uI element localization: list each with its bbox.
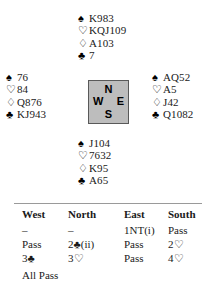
table-row: Pass 2♣(ii) Pass 2♡: [0, 238, 216, 252]
hand-west: ♠76 ♡84 ♢Q876 ♣KJ943: [6, 71, 46, 121]
bid-east-3: Pass: [124, 252, 168, 266]
hand-south-diamonds-cards: K95: [89, 162, 108, 174]
hand-east: ♠AQ52 ♡A5 ♢J42 ♣Q1082: [152, 71, 193, 121]
hand-west-spades-cards: 76: [17, 71, 28, 83]
hand-north-spades-cards: K983: [89, 12, 114, 24]
hand-south-clubs: ♣A65: [78, 174, 111, 186]
bid-south-3: 4♡: [168, 252, 216, 266]
hand-east-diamonds-cards: J42: [163, 96, 179, 108]
hand-east-spades: ♠AQ52: [152, 71, 193, 83]
table-row: 3♣ 3♡ Pass 4♡: [0, 252, 216, 266]
compass-north-label: N: [89, 84, 128, 95]
bidding-table: West North East South – – 1NT(i) Pass Pa…: [0, 208, 216, 283]
hand-west-hearts-cards: 84: [17, 83, 28, 95]
bidding-header-west: West: [0, 208, 68, 224]
heart-icon: ♡: [78, 24, 89, 36]
hand-west-clubs-cards: KJ943: [17, 108, 46, 120]
bid-east-2: Pass: [124, 238, 168, 252]
club-icon: ♣: [78, 174, 89, 186]
hand-west-diamonds-cards: Q876: [17, 96, 42, 108]
hand-east-clubs-cards: Q1082: [163, 108, 193, 120]
hand-west-clubs: ♣KJ943: [6, 108, 46, 120]
bidding-header-south: South: [168, 208, 216, 224]
hand-east-clubs: ♣Q1082: [152, 108, 193, 120]
bid-west-3: 3♣: [0, 252, 68, 266]
hand-north-clubs-cards: 7: [89, 49, 95, 61]
diamond-icon: ♢: [78, 162, 89, 174]
bidding-table-divider: [14, 203, 202, 204]
diamond-icon: ♢: [152, 96, 163, 108]
hand-north-spades: ♠K983: [78, 12, 126, 24]
hand-south: ♠J104 ♡7632 ♢K95 ♣A65: [78, 137, 111, 187]
bridge-hand-diagram: ♠K983 ♡KQJ109 ♢A103 ♣7 ♠76 ♡84 ♢Q876 ♣KJ…: [0, 0, 216, 299]
bid-south-2: 2♡: [168, 238, 216, 252]
hand-east-diamonds: ♢J42: [152, 96, 193, 108]
club-icon: ♣: [152, 108, 163, 120]
bid-north-3: 3♡: [68, 252, 124, 266]
hand-east-hearts: ♡A5: [152, 83, 193, 95]
club-icon: ♣: [6, 108, 17, 120]
heart-icon: ♡: [6, 83, 17, 95]
hand-west-spades: ♠76: [6, 71, 46, 83]
heart-icon: ♡: [78, 149, 89, 161]
hand-north-diamonds: ♢A103: [78, 37, 126, 49]
hand-south-hearts-cards: 7632: [89, 149, 111, 161]
bidding-header-row: West North East South: [0, 208, 216, 224]
spade-icon: ♠: [78, 137, 89, 149]
diamond-icon: ♢: [6, 96, 17, 108]
bid-north-2: 2♣(ii): [68, 238, 124, 252]
heart-icon: ♡: [152, 83, 163, 95]
bid-west-2: Pass: [0, 238, 68, 252]
compass-east-label: E: [117, 96, 124, 107]
compass-west-label: W: [93, 96, 103, 107]
hand-west-diamonds: ♢Q876: [6, 96, 46, 108]
hand-south-clubs-cards: A65: [89, 174, 108, 186]
hand-north-clubs: ♣7: [78, 49, 126, 61]
hand-south-spades-cards: J104: [89, 137, 110, 149]
page-artifact-text: [4, 0, 58, 7]
hand-south-hearts: ♡7632: [78, 149, 111, 161]
spade-icon: ♠: [152, 71, 163, 83]
spade-icon: ♠: [78, 12, 89, 24]
hand-north-hearts-cards: KQJ109: [89, 24, 126, 36]
hand-south-spades: ♠J104: [78, 137, 111, 149]
spade-icon: ♠: [6, 71, 17, 83]
bid-north-1: –: [68, 224, 124, 238]
hand-east-hearts-cards: A5: [163, 83, 177, 95]
bidding-header-north: North: [68, 208, 124, 224]
bid-east-1: 1NT(i): [124, 224, 168, 238]
bidding-header-east: East: [124, 208, 168, 224]
hand-north-diamonds-cards: A103: [89, 37, 114, 49]
bid-west-1: –: [0, 224, 68, 238]
hand-north: ♠K983 ♡KQJ109 ♢A103 ♣7: [78, 12, 126, 62]
hand-north-hearts: ♡KQJ109: [78, 24, 126, 36]
diamond-icon: ♢: [78, 37, 89, 49]
bid-all-pass: All Pass: [0, 266, 216, 283]
bid-south-1: Pass: [168, 224, 216, 238]
table-row: – – 1NT(i) Pass: [0, 224, 216, 238]
compass-south-label: S: [89, 109, 128, 120]
club-icon: ♣: [78, 49, 89, 61]
compass-box: N W E S: [88, 80, 129, 124]
hand-west-hearts: ♡84: [6, 83, 46, 95]
hand-east-spades-cards: AQ52: [163, 71, 190, 83]
table-row-all-pass: All Pass: [0, 266, 216, 283]
hand-south-diamonds: ♢K95: [78, 162, 111, 174]
